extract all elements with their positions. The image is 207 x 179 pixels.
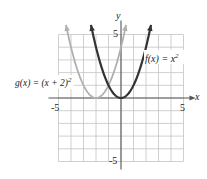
g-label-exponent: 2 [68,76,72,84]
svg-text:g(x) = (x + 2)2: g(x) = (x + 2)2 [15,76,72,89]
x-tick-label-min: -5 [51,102,59,113]
y-axis-label: y [115,10,121,21]
f-label-text: f(x) = x [145,53,176,65]
graph-canvas: x y -5 5 5 -5 f(x) = x2 g(x) = (x + 2)2 [0,0,207,179]
svg-text:f(x) = x2: f(x) = x2 [145,52,179,65]
x-tick-label-max: 5 [180,102,185,113]
y-tick-label-max: 5 [113,28,118,39]
x-axis-label: x [194,91,200,102]
y-tick-label-min: -5 [109,155,117,166]
f-function-label: f(x) = x2 [144,50,186,65]
g-function-label: g(x) = (x + 2)2 [14,75,74,89]
g-label-text: g(x) = (x + 2) [15,78,68,89]
f-label-exponent: 2 [175,52,179,60]
